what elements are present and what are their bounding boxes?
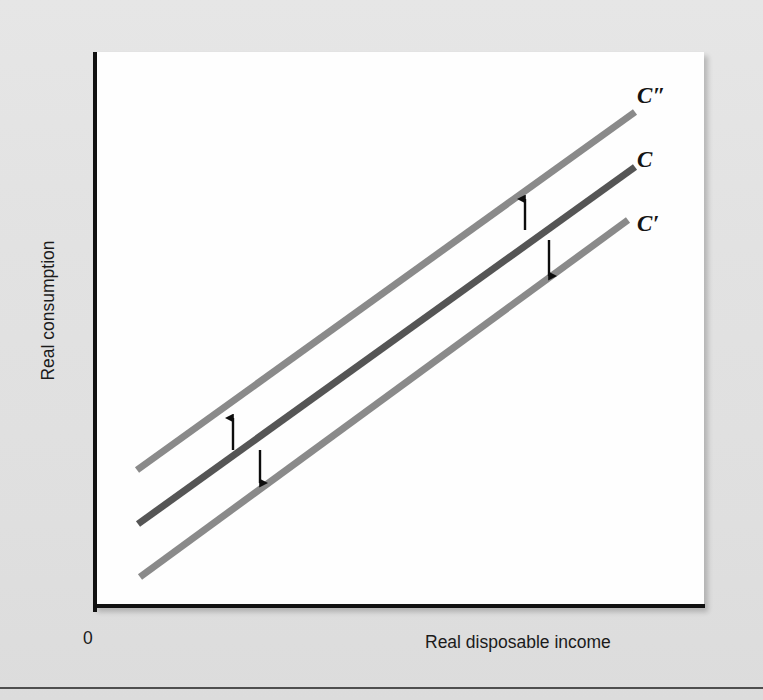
curve-label-c: C — [637, 147, 653, 173]
curve-line-c-prime — [140, 220, 628, 577]
page-bottom-rule — [0, 687, 763, 689]
curve-line-c — [138, 167, 635, 524]
curve-label-c-prime: C′ — [637, 211, 660, 237]
consumption-function-figure: C″ C C′ Real consumption Real disposable… — [0, 0, 763, 700]
y-axis-title: Real consumption — [38, 211, 59, 411]
origin-label: 0 — [83, 628, 93, 649]
curve-label-c-double-prime: C″ — [637, 83, 666, 109]
plot-lines-and-arrows — [93, 52, 704, 608]
curve-line-c-double-prime — [137, 112, 635, 470]
x-axis-title: Real disposable income — [425, 632, 611, 653]
